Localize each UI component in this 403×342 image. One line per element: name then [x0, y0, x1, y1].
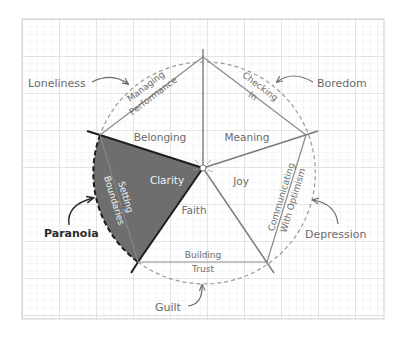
sector-clarity: Clarity: [150, 174, 184, 186]
state-loneliness: Loneliness: [28, 77, 86, 90]
state-boredom: Boredom: [317, 77, 367, 90]
sector-meaning: Meaning: [225, 131, 270, 143]
edge-label-trust: Trust: [191, 264, 214, 274]
diagram-canvas: Belonging Meaning Joy Faith Clarity Mana…: [0, 0, 403, 342]
sector-joy: Joy: [232, 175, 249, 187]
state-depression: Depression: [305, 228, 367, 241]
state-paranoia: Paranoia: [44, 227, 99, 240]
state-guilt: Guilt: [155, 301, 182, 314]
edge-label-building: Building: [185, 250, 222, 260]
pentagon-wheel-diagram: Belonging Meaning Joy Faith Clarity Mana…: [0, 0, 403, 342]
sector-belonging: Belonging: [134, 131, 187, 143]
sector-faith: Faith: [181, 204, 206, 216]
